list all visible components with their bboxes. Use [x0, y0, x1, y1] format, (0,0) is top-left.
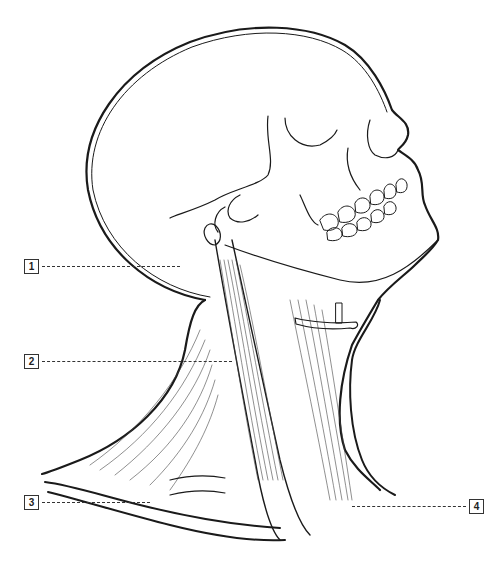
leader-line-3: [42, 502, 150, 503]
head-outline: [87, 28, 439, 490]
leader-line-2: [42, 361, 232, 362]
leader-line-4: [352, 506, 466, 507]
mastoid-process: [204, 224, 220, 245]
leader-line-1: [42, 266, 180, 267]
neck-anatomy-illustration: [0, 0, 504, 567]
clavicle: [45, 482, 280, 528]
label-4: 4: [469, 499, 484, 514]
skull-orbit: [285, 118, 337, 146]
hyoid-bone: [295, 318, 358, 329]
teeth: [320, 179, 407, 241]
label-3: 3: [24, 495, 39, 510]
label-1: 1: [24, 259, 39, 274]
sternocleidomastoid: [215, 240, 310, 540]
label-2: 2: [24, 354, 39, 369]
